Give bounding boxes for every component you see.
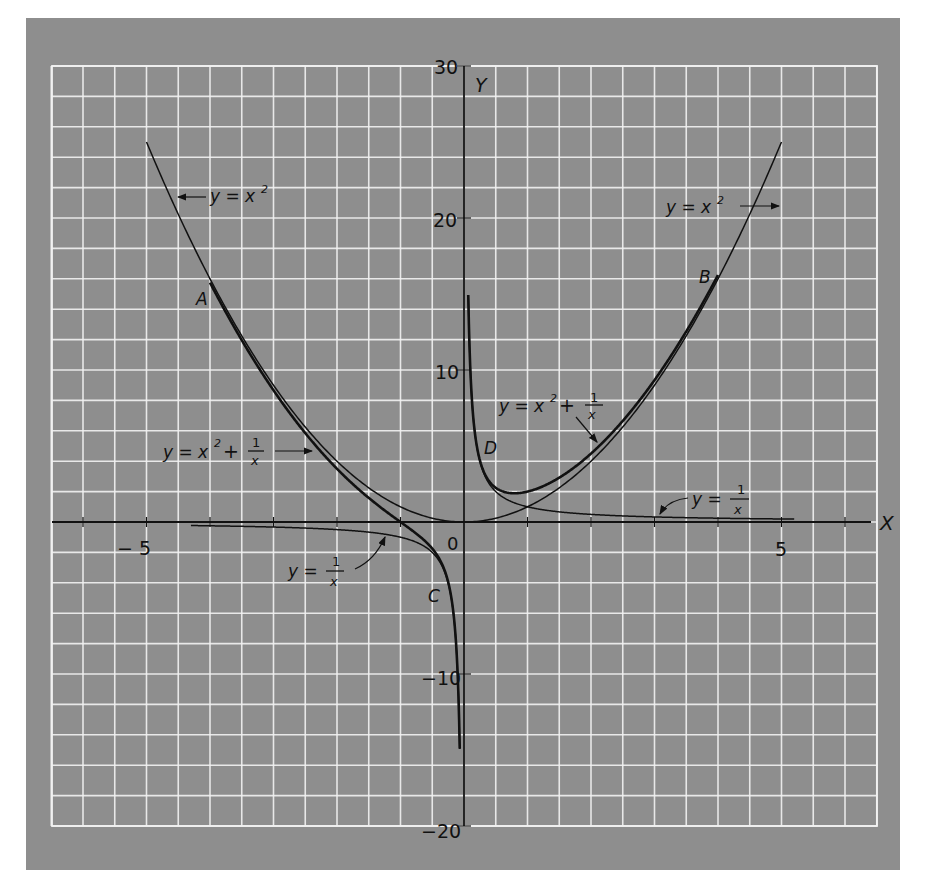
y-tick-label-10: 10	[435, 361, 459, 383]
y-tick-label-30: 30	[434, 56, 458, 78]
svg-text:x: x	[250, 453, 259, 468]
y-tick-label-20: 20	[433, 209, 457, 231]
x-axis-label: X	[879, 511, 895, 535]
svg-text:2: 2	[214, 437, 221, 450]
origin-label: 0	[447, 533, 458, 554]
annotation-inv-left: y = 1 x	[287, 554, 344, 589]
svg-text:y = x: y = x	[209, 186, 256, 206]
chart-plot: X Y 0 − 5 5 30 20 10 −10 −20 A B C D y =…	[0, 0, 940, 893]
svg-text:y =: y =	[691, 489, 722, 509]
svg-text:2: 2	[717, 194, 724, 207]
svg-text:2: 2	[550, 392, 557, 405]
svg-text:2: 2	[261, 183, 268, 196]
svg-text:y =: y =	[287, 561, 318, 581]
point-label-d: D	[484, 438, 497, 458]
annotation-sum-right: y = x 2 + 1 x	[498, 390, 603, 422]
svg-text:+: +	[223, 440, 239, 462]
svg-text:x: x	[587, 407, 596, 422]
x-tick-label-5: 5	[775, 538, 787, 560]
point-label-b: B	[699, 267, 711, 287]
annotation-x2-left: y = x 2	[209, 183, 268, 206]
curves	[147, 142, 795, 749]
y-tick-label-neg20: −20	[421, 820, 461, 842]
svg-text:y = x: y = x	[162, 442, 209, 462]
svg-text:1: 1	[332, 554, 340, 569]
point-label-a: A	[195, 289, 208, 309]
svg-text:1: 1	[590, 390, 598, 405]
svg-text:1: 1	[737, 482, 745, 497]
svg-text:+: +	[559, 394, 575, 416]
annotation-sum-left: y = x 2 + 1 x	[162, 435, 264, 468]
x-tick-label-neg5: − 5	[117, 537, 151, 559]
svg-text:1: 1	[252, 435, 260, 450]
y-tick-label-neg10: −10	[421, 667, 461, 689]
svg-text:x: x	[329, 574, 338, 589]
svg-text:x: x	[733, 502, 742, 517]
annotation-inv-right: y = 1 x	[691, 482, 749, 517]
y-axis-label: Y	[475, 74, 488, 96]
point-label-c: C	[428, 586, 440, 606]
annotation-x2-right: y = x 2	[665, 194, 724, 217]
svg-text:y = x: y = x	[665, 197, 712, 217]
svg-text:y = x: y = x	[498, 396, 545, 416]
curve-inverse-neg	[191, 526, 460, 749]
